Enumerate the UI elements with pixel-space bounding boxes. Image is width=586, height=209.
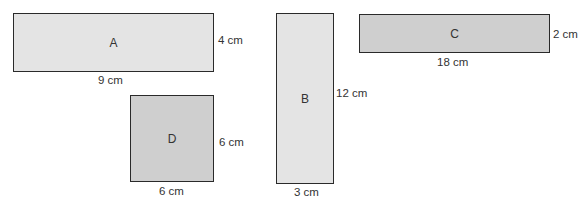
rectangle-a-label: A [109,36,117,50]
rectangle-a-height: 4 cm [218,34,243,46]
rectangle-b-height: 12 cm [336,87,367,99]
rectangle-b-label: B [301,92,309,106]
rectangle-c: C [359,14,550,53]
square-d-height: 6 cm [219,136,244,148]
square-d-label: D [168,132,177,146]
rectangle-b-width: 3 cm [294,186,319,198]
square-d-width: 6 cm [159,185,184,197]
rectangle-c-height: 2 cm [553,28,578,40]
rectangle-a-width: 9 cm [98,74,123,86]
rectangle-c-width: 18 cm [437,56,468,68]
rectangle-b: B [276,13,334,184]
rectangle-c-label: C [450,27,459,41]
square-d: D [130,95,214,182]
rectangle-a: A [13,13,214,72]
